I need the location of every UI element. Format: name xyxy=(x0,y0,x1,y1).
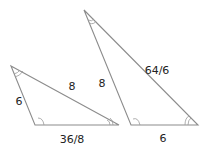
single-arc-angle-mark xyxy=(133,119,140,125)
single-arc-angle-mark xyxy=(38,118,44,125)
side-label: 8 xyxy=(69,80,76,93)
similar-triangles-diagram: 6 8 36/8 8 64/6 6 xyxy=(0,0,207,149)
double-arc-angle-mark xyxy=(14,70,20,74)
left-triangle-outline xyxy=(11,66,119,125)
side-label: 64/6 xyxy=(145,64,170,77)
side-label: 36/8 xyxy=(60,133,85,146)
double-arc-angle-mark xyxy=(107,120,110,125)
double-arc-angle-mark xyxy=(188,118,191,125)
side-label: 6 xyxy=(16,95,23,108)
right-triangle-outline xyxy=(84,10,198,125)
side-label: 8 xyxy=(99,77,106,90)
side-label: 6 xyxy=(160,132,167,145)
